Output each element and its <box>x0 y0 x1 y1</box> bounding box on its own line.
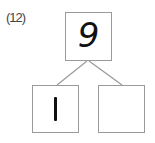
total-box: 9 <box>65 12 112 61</box>
part-value-left <box>54 97 57 121</box>
part-box-left <box>32 85 79 133</box>
part-box-right-answer[interactable] <box>98 85 145 133</box>
total-value: 9 <box>78 15 100 55</box>
